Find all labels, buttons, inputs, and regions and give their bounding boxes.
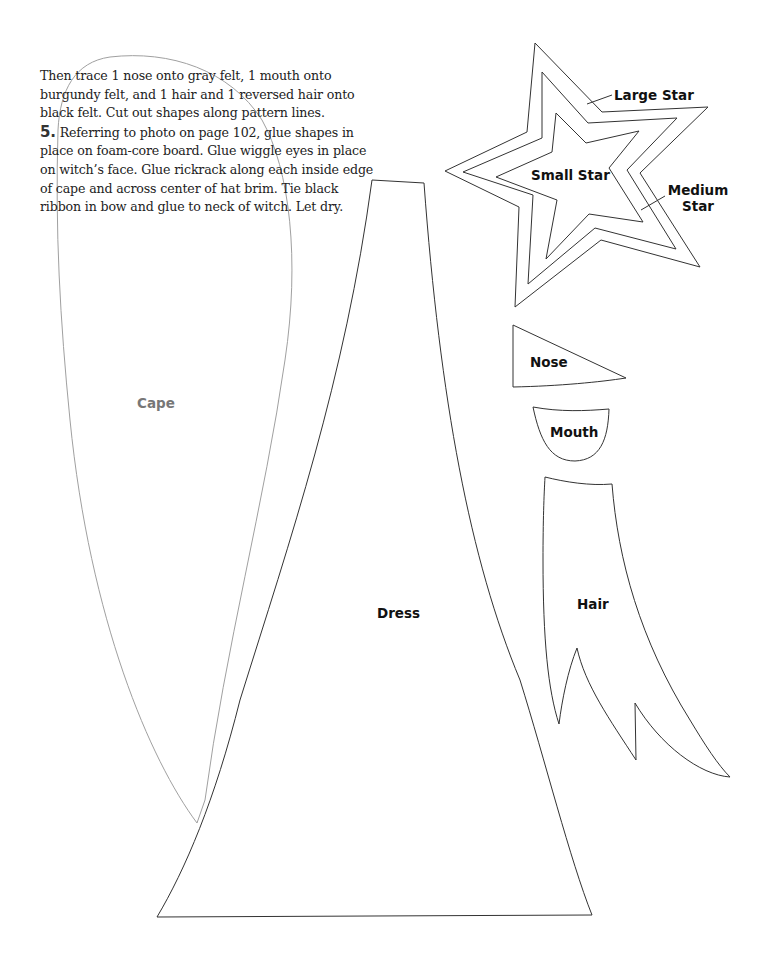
pattern-page: Then trace 1 nose onto gray felt, 1 mout… [0,0,761,953]
cape-label: Cape [137,395,175,411]
medium-star-label: Medium Star [666,182,730,214]
medium-star-label-line2: Star [666,198,730,214]
instructions-step-5: 5. Referring to photo on page 102, glue … [40,123,380,217]
hair-pattern-outline [543,477,730,777]
step-text: Referring to photo on page 102, glue sha… [40,125,373,214]
dress-label: Dress [377,605,420,621]
step-number: 5. [40,123,56,141]
nose-label: Nose [530,354,568,370]
mouth-label: Mouth [550,424,598,440]
hair-label: Hair [577,596,609,612]
medium-star-label-line1: Medium [666,182,730,198]
large-star-label: Large Star [614,87,694,103]
instructions-continuation: Then trace 1 nose onto gray felt, 1 mout… [40,67,380,123]
small-star-label: Small Star [531,167,610,183]
instructions-text: Then trace 1 nose onto gray felt, 1 mout… [40,67,380,217]
large-star-leader-line [587,95,612,104]
